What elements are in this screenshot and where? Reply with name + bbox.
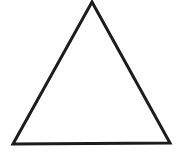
triangle-diagram: [0, 0, 176, 162]
figure-canvas: [0, 0, 176, 162]
